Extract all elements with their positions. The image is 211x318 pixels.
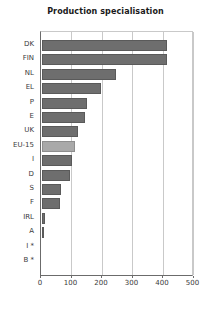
y-axis-category-labels: DKFINNLELPEUKEU-15IDSFIRLAI *B *: [0, 31, 37, 276]
bar-eu15: [42, 141, 76, 152]
bar-a: [42, 227, 44, 238]
chart-container: Production specialisation DKFINNLELPEUKE…: [0, 0, 211, 318]
x-tickmark-200: [101, 276, 102, 278]
bar-irl: [42, 213, 46, 224]
x-axis-label-300: 300: [125, 279, 138, 287]
bar-d: [42, 170, 71, 181]
x-axis-label-100: 100: [64, 279, 77, 287]
y-axis-label-a: A: [29, 226, 34, 237]
y-axis-label-el: EL: [26, 82, 34, 93]
y-axis-label-s: S: [30, 183, 34, 194]
bar-p: [42, 98, 88, 109]
y-axis-label-b: B *: [23, 255, 34, 266]
bar-el: [42, 83, 101, 94]
bar-series: [42, 32, 193, 275]
bar-i: [42, 155, 73, 166]
x-tickmark-0: [40, 276, 41, 278]
gridline-500: [193, 32, 194, 275]
plot-area: [40, 31, 194, 276]
y-axis-label-fin: FIN: [23, 53, 34, 64]
x-tickmark-300: [132, 276, 133, 278]
bar-f: [42, 198, 61, 209]
x-axis-tick-labels: 0100200300400500: [40, 277, 194, 291]
y-axis-label-e: E: [30, 111, 34, 122]
y-axis-label-i: I: [32, 154, 34, 165]
x-axis-label-500: 500: [186, 279, 199, 287]
y-axis-label-d: D: [29, 169, 34, 180]
bar-nl: [42, 69, 116, 80]
x-axis-label-200: 200: [94, 279, 107, 287]
y-axis-label-eu15: EU-15: [13, 140, 34, 151]
bar-e: [42, 112, 86, 123]
y-axis-label-i: I *: [26, 241, 34, 252]
y-axis-label-irl: IRL: [23, 212, 34, 223]
bar-fin: [42, 54, 167, 65]
bar-uk: [42, 126, 79, 137]
y-axis-label-f: F: [30, 197, 34, 208]
y-axis-label-uk: UK: [24, 125, 34, 136]
x-tickmark-400: [162, 276, 163, 278]
chart-title: Production specialisation: [0, 7, 211, 16]
bar-dk: [42, 40, 168, 51]
x-axis-label-400: 400: [155, 279, 168, 287]
y-axis-label-nl: NL: [25, 68, 34, 79]
y-axis-label-dk: DK: [24, 39, 34, 50]
bar-s: [42, 184, 62, 195]
y-axis-label-p: P: [30, 97, 34, 108]
x-tickmark-500: [193, 276, 194, 278]
x-axis-label-0: 0: [38, 279, 42, 287]
x-tickmark-100: [71, 276, 72, 278]
